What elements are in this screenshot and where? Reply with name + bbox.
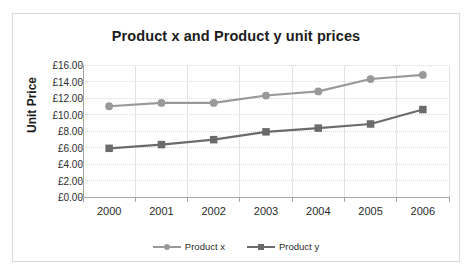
data-point-marker — [105, 145, 113, 153]
data-point-marker — [262, 92, 270, 100]
data-point-marker — [210, 99, 218, 107]
data-point-marker — [105, 102, 113, 110]
legend-item-2[interactable]: Product y — [247, 241, 319, 252]
plot-area — [13, 14, 461, 263]
data-point-marker — [419, 71, 427, 79]
chart-container: Product x and Product y unit prices Unit… — [12, 13, 460, 262]
data-point-marker — [210, 136, 218, 144]
data-point-marker — [314, 88, 322, 96]
data-point-marker — [262, 128, 270, 136]
data-point-marker — [315, 124, 323, 132]
series-line-1 — [109, 75, 423, 106]
chart-svg — [13, 14, 461, 263]
data-point-marker — [158, 141, 166, 149]
data-point-marker — [419, 106, 427, 114]
data-point-marker — [367, 75, 375, 83]
chart-legend: Product xProduct y — [13, 241, 459, 252]
data-point-marker — [158, 99, 166, 107]
data-point-marker — [367, 120, 375, 128]
legend-square-marker-icon — [247, 242, 275, 252]
legend-item-1[interactable]: Product x — [153, 241, 225, 252]
legend-circle-marker-icon — [153, 242, 181, 252]
legend-marker — [164, 244, 170, 250]
legend-label: Product y — [279, 241, 319, 252]
legend-label: Product x — [185, 241, 225, 252]
legend-marker — [258, 244, 264, 250]
